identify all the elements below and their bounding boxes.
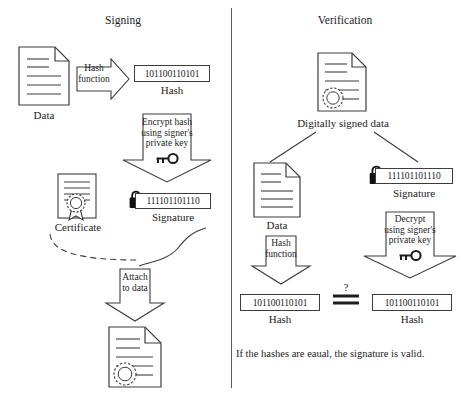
hash-function-line-2: function [251,249,311,260]
key-icon [155,152,179,165]
hash-function-label: Hash function [76,63,112,85]
verification-data-label: Data [248,220,306,232]
verification-caption: If the hashes are eaual, the signature i… [236,348,461,359]
document-icon [17,45,71,107]
panel-divider [231,8,232,388]
attach-line-1: Attach [105,272,165,283]
signed-document-icon [107,325,163,389]
verification-hash-left-label: Hash [240,314,320,326]
signature-join-curve [130,226,210,272]
equals-sign [331,291,361,307]
verification-signature-value: 111101101110 [387,171,440,181]
verification-branch-right-line [372,130,420,164]
verification-signature-box: 111101101110 [375,168,453,184]
signing-hash-label: Hash [134,85,210,97]
certificate-icon [56,172,98,222]
hash-function-line-1: Hash [76,63,112,74]
hash-function-line-1: Hash [251,238,311,249]
document-icon [252,161,302,219]
encrypt-label: Encrypt hash using signer's private key [123,117,211,149]
hash-comparison: ? [329,283,363,307]
encrypt-line-2: using signer's [123,128,211,139]
verification-hash-left-value: 101100110101 [253,298,308,308]
signing-signature-box: 111101101110 [135,193,211,209]
encrypt-line-1: Encrypt hash [123,117,211,128]
signed-document-icon [316,51,368,113]
signing-signature-label: Signature [135,212,211,224]
verification-hash-left-box: 101100110101 [240,294,320,311]
decrypt-line-3: private key [364,235,456,246]
digitally-signed-data-label: Digitally signed data [283,118,403,130]
signing-signature-value: 111101101110 [146,196,199,206]
verification-branch-left-line [268,130,318,164]
signing-panel-title: Signing [63,14,183,26]
signing-hash-value: 101100110101 [145,69,200,79]
decrypt-line-1: Decrypt [364,214,456,225]
verification-signature-label: Signature [375,188,453,200]
verification-panel-title: Verification [285,14,405,26]
verification-hash-right-value: 101100110101 [385,298,440,308]
key-icon [398,249,422,262]
verification-hash-function-label: Hash function [251,238,311,259]
encrypt-line-3: private key [123,138,211,149]
comparison-question-mark: ? [344,283,349,291]
attach-line-2: to data [105,283,165,294]
verification-hash-right-label: Hash [372,314,452,326]
verification-hash-right-box: 101100110101 [372,294,452,311]
hash-function-line-2: function [76,74,112,85]
signing-data-label: Data [14,110,74,122]
decrypt-label: Decrypt using signer's private key [364,214,456,246]
decrypt-line-2: using signer's [364,225,456,236]
signing-hash-box: 101100110101 [134,65,210,82]
attach-label: Attach to data [105,272,165,293]
